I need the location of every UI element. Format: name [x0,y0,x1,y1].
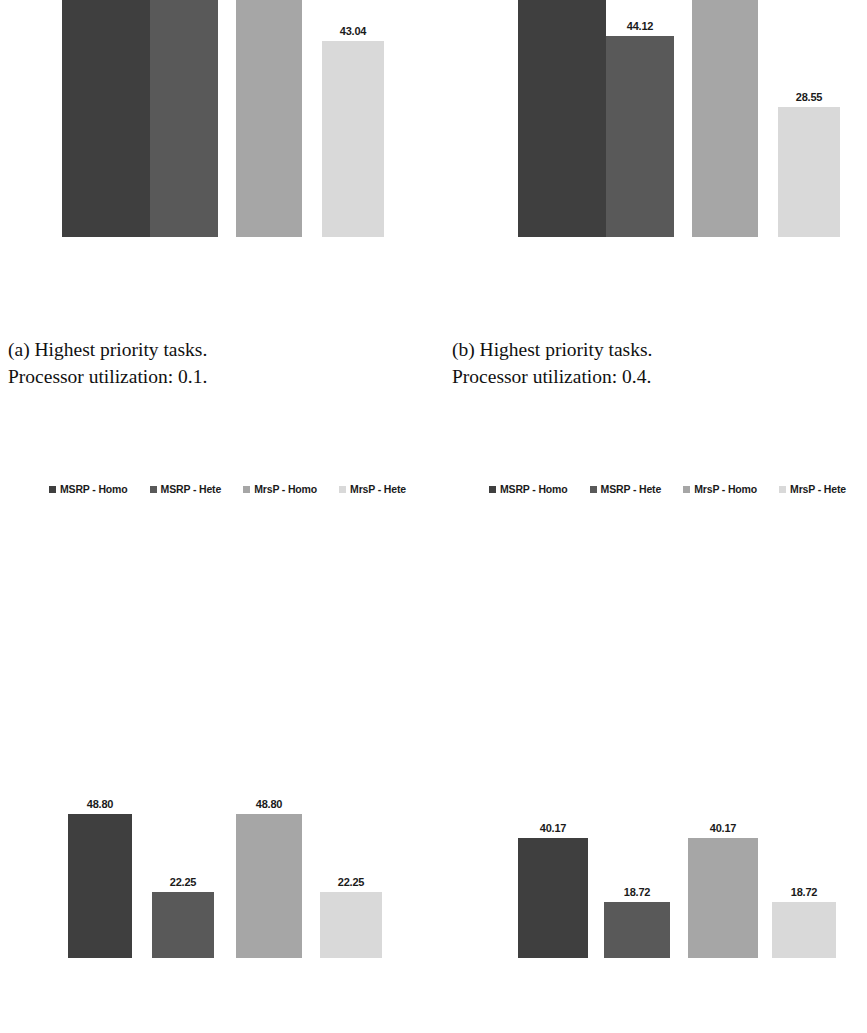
bar-bottom-left-3 [320,892,382,958]
legend-label: MrsP - Homo [254,483,317,495]
plot-area: 63.4243.04 [0,0,434,237]
chart-top-right: 44.1259.6428.55 [456,0,867,237]
legend-left-item-0: MSRP - Homo [49,483,128,495]
legend-label: MSRP - Hete [601,483,662,495]
caption-b: (b) Highest priority tasks. Processor ut… [452,337,867,391]
legend-swatch-icon [590,486,597,493]
legend-swatch-icon [243,486,250,493]
figure-grid: 63.4243.04 44.1259.6428.55 (a) Highest p… [0,0,867,1033]
plot-area: 48.8022.2548.8022.25 [0,700,434,958]
legend-swatch-icon [683,486,690,493]
bar-value-label: 40.17 [688,822,758,834]
legend-label: MrsP - Hete [350,483,406,495]
legend-right: MSRP - HomoMSRP - HeteMrsP - HomoMrsP - … [460,480,867,498]
legend-label: MrsP - Hete [790,483,846,495]
bar-top-right-3 [778,107,840,237]
bar-bottom-right-0 [518,838,588,958]
bar-value-label: 48.80 [236,798,302,810]
bar-value-label: 40.17 [518,822,588,834]
legend-left-item-2: MrsP - Homo [243,483,317,495]
legend-swatch-icon [489,486,496,493]
bar-value-label: 28.55 [778,91,840,103]
legend-label: MSRP - Homo [500,483,568,495]
plot-area: 44.1259.6428.55 [456,0,867,237]
legend-right-item-1: MSRP - Hete [590,483,662,495]
bar-value-label: 43.04 [322,25,384,37]
legend-swatch-icon [150,486,157,493]
bar-value-label: 22.25 [320,876,382,888]
bar-top-right-1 [606,36,674,237]
bar-top-left-0 [62,0,150,237]
legend-label: MSRP - Hete [161,483,222,495]
bar-bottom-right-3 [772,902,836,958]
legend-swatch-icon [49,486,56,493]
bar-bottom-right-2 [688,838,758,958]
legend-swatch-icon [339,486,346,493]
legend-swatch-icon [779,486,786,493]
bar-top-left-1 [150,0,218,237]
bar-value-label: 22.25 [152,876,214,888]
bar-value-label: 18.72 [772,886,836,898]
bar-value-label: 44.12 [606,20,674,32]
bar-bottom-left-2 [236,814,302,958]
bar-top-left-2 [236,0,302,237]
bar-bottom-left-0 [68,814,132,958]
legend-label: MrsP - Homo [694,483,757,495]
chart-top-left: 63.4243.04 [0,0,434,237]
chart-bottom-right: 40.1718.7240.1718.72 [456,700,867,958]
chart-bottom-left: 48.8022.2548.8022.25 [0,700,434,958]
legend-right-item-3: MrsP - Hete [779,483,846,495]
bar-value-label: 48.80 [68,798,132,810]
caption-a: (a) Highest priority tasks. Processor ut… [8,337,428,391]
bar-top-left-3 [322,41,384,237]
bar-value-label: 18.72 [604,886,670,898]
bar-bottom-right-1 [604,902,670,958]
bar-top-right-0 [518,0,606,237]
legend-right-item-0: MSRP - Homo [489,483,568,495]
legend-left-item-1: MSRP - Hete [150,483,222,495]
bar-top-right-2 [692,0,758,237]
legend-label: MSRP - Homo [60,483,128,495]
plot-area: 40.1718.7240.1718.72 [456,700,867,958]
bar-bottom-left-1 [152,892,214,958]
legend-left-item-3: MrsP - Hete [339,483,406,495]
legend-left: MSRP - HomoMSRP - HeteMrsP - HomoMrsP - … [20,480,435,498]
legend-right-item-2: MrsP - Homo [683,483,757,495]
